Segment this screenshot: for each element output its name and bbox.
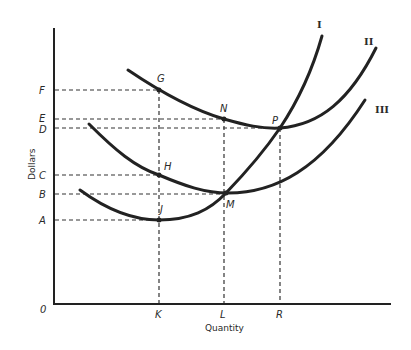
curve-label-III: III	[375, 104, 389, 115]
label-H: H	[164, 161, 172, 172]
label-M: M	[226, 199, 235, 210]
point-H	[157, 173, 162, 178]
label-G: G	[157, 73, 165, 84]
curve-label-II: II	[364, 36, 374, 47]
point-N	[222, 117, 227, 122]
point-G	[157, 88, 162, 93]
point-P	[278, 126, 283, 131]
point-J	[157, 218, 162, 223]
point-M	[224, 191, 229, 196]
curve-label-I: I	[317, 19, 322, 30]
x-label-R: R	[276, 309, 283, 320]
y-label-F: F	[39, 85, 45, 96]
curve-II	[128, 48, 376, 128]
origin-label: 0	[40, 304, 46, 315]
label-N: N	[220, 103, 228, 114]
y-label-A: A	[38, 215, 46, 226]
y-label-C: C	[39, 170, 46, 181]
x-label-L: L	[220, 309, 226, 320]
label-P: P	[272, 115, 279, 126]
y-label-B: B	[39, 189, 46, 200]
cost-curve-diagram: F E D C B A 0 K L R Quantity Dollars G N…	[0, 0, 411, 350]
x-axis-title: Quantity	[205, 323, 245, 333]
x-label-K: K	[155, 309, 163, 320]
y-axis-title: Dollars	[27, 148, 37, 180]
y-label-D: D	[39, 124, 47, 135]
y-label-E: E	[39, 113, 46, 124]
